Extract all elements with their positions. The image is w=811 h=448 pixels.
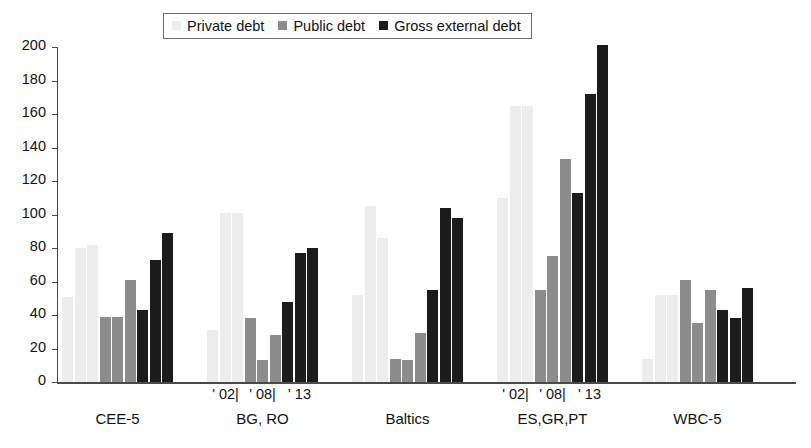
group-labels: CEE-5BG, ROBalticsES,GR,PTWBC-5 — [0, 410, 811, 432]
bar — [137, 310, 148, 382]
bar — [655, 295, 666, 382]
y-axis-tick — [52, 382, 58, 383]
year-label: ' 08| — [244, 386, 281, 402]
y-axis-tick-label: 120 — [6, 174, 46, 184]
y-axis-tick-label: 0 — [6, 375, 46, 385]
bar-chart: Private debt Public debt Gross external … — [0, 0, 811, 448]
bar — [207, 330, 218, 382]
y-axis-tick-label: 140 — [6, 141, 46, 151]
group-label: ES,GR,PT — [517, 410, 587, 427]
y-axis-tick-label: 160 — [6, 107, 46, 117]
bar — [125, 280, 136, 382]
legend-label-gross-external-debt: Gross external debt — [394, 19, 521, 33]
y-axis-tick-label: 100 — [6, 208, 46, 218]
gross-external-debt-swatch-icon — [379, 21, 388, 30]
group-label: Baltics — [385, 410, 429, 427]
y-axis-tick-label: 40 — [6, 308, 46, 318]
bar — [402, 360, 413, 382]
group-label: CEE-5 — [95, 410, 139, 427]
bar — [572, 193, 583, 382]
year-tick-labels: ' 02|' 08|' 13' 02|' 08|' 13 — [0, 386, 811, 404]
bar — [510, 106, 521, 382]
year-label: ' 02| — [497, 386, 534, 402]
bar — [742, 288, 753, 382]
bar — [692, 323, 703, 382]
bar — [100, 317, 111, 382]
bar — [680, 280, 691, 382]
bar — [497, 198, 508, 382]
bar — [150, 260, 161, 382]
bar — [730, 318, 741, 382]
legend-item-gross-external-debt: Gross external debt — [379, 19, 521, 33]
bar — [452, 218, 463, 382]
private-debt-swatch-icon — [172, 21, 181, 30]
bar — [257, 360, 268, 382]
bar — [232, 213, 243, 382]
group-label: BG, RO — [236, 410, 289, 427]
bar — [245, 318, 256, 382]
bar — [62, 297, 73, 382]
legend-label-private-debt: Private debt — [187, 19, 264, 33]
bars-layer — [57, 47, 796, 382]
bar — [585, 94, 596, 382]
y-axis-tick-label: 20 — [6, 342, 46, 352]
bar — [282, 302, 293, 382]
y-axis-tick-label: 200 — [6, 40, 46, 50]
year-label: ' 02| — [207, 386, 244, 402]
bar — [220, 213, 231, 382]
bar — [440, 208, 451, 382]
year-label: ' 13 — [571, 386, 608, 402]
bar — [390, 359, 401, 382]
bar — [415, 333, 426, 382]
public-debt-swatch-icon — [278, 21, 287, 30]
y-axis-tick-label: 60 — [6, 275, 46, 285]
group-label: WBC-5 — [673, 410, 721, 427]
bar — [427, 290, 438, 382]
bar — [705, 290, 716, 382]
chart-legend: Private debt Public debt Gross external … — [163, 13, 532, 39]
bar — [75, 248, 86, 382]
bar — [522, 106, 533, 382]
year-label: ' 08| — [534, 386, 571, 402]
bar — [535, 290, 546, 382]
bar — [667, 295, 678, 382]
legend-label-public-debt: Public debt — [293, 19, 365, 33]
bar — [642, 359, 653, 382]
bar — [87, 245, 98, 382]
bar — [112, 317, 123, 382]
bar — [365, 206, 376, 382]
y-axis-tick-label: 80 — [6, 241, 46, 251]
bar — [270, 335, 281, 382]
bar — [547, 256, 558, 382]
bar — [597, 45, 608, 382]
legend-item-private-debt: Private debt — [172, 19, 264, 33]
legend-item-public-debt: Public debt — [278, 19, 365, 33]
bar — [162, 233, 173, 382]
bar — [352, 295, 363, 382]
x-axis-line — [57, 382, 796, 384]
y-axis-tick-label: 180 — [6, 74, 46, 84]
bar — [295, 253, 306, 382]
year-label: ' 13 — [281, 386, 318, 402]
bar — [307, 248, 318, 382]
bar — [377, 238, 388, 382]
bar — [560, 159, 571, 382]
bar — [717, 310, 728, 382]
